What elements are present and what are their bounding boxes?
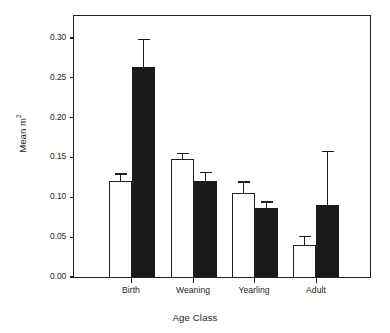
error-bar-cap [322, 151, 334, 152]
y-axis-tick-label: 0.25 [36, 72, 66, 82]
y-axis-tick-label: 0.00 [36, 271, 66, 281]
error-bar-cap [177, 153, 189, 154]
x-axis-label-weaning: Weaning [158, 285, 228, 295]
error-bar-cap [200, 172, 212, 173]
plot-area: 0.000.050.100.150.200.250.30 [73, 15, 371, 278]
error-bar-stem [304, 236, 305, 246]
bar-birth-open-bar [109, 181, 132, 277]
bar-yearling-filled-bar [255, 208, 278, 277]
error-bar-cap [261, 201, 273, 202]
bar-adult-open-bar [293, 245, 316, 277]
error-bar-stem [327, 151, 328, 205]
bar-yearling-open-bar [232, 193, 255, 277]
error-bar-cap [138, 39, 150, 40]
y-axis-tick-label: 0.30 [36, 32, 66, 42]
x-axis-tick-birth [131, 278, 132, 283]
plot-surface: 0.000.050.100.150.200.250.30 [74, 16, 370, 277]
x-axis-tick-weaning [193, 278, 194, 283]
y-axis-tick-mark [70, 77, 75, 78]
y-axis-tick-mark [70, 37, 75, 38]
y-axis-tick-label: 0.10 [36, 191, 66, 201]
error-bar-stem [205, 172, 206, 181]
x-axis-label-birth: Birth [96, 285, 166, 295]
x-axis-label-adult: Adult [281, 285, 351, 295]
bar-chart-figure: Mean m2 0.000.050.100.150.200.250.30 Age… [0, 0, 390, 333]
y-axis-title-superscript: 2 [15, 114, 22, 118]
y-axis-tick-label: 0.20 [36, 112, 66, 122]
error-bar-cap [238, 181, 250, 182]
y-axis-title-text: Mean m [17, 118, 28, 153]
error-bar-stem [243, 181, 244, 192]
x-axis-tick-yearling [254, 278, 255, 283]
y-axis-tick-mark [70, 276, 75, 277]
bar-birth-filled-bar [132, 67, 155, 277]
y-axis-tick-mark [70, 117, 75, 118]
bar-adult-filled-bar [316, 205, 339, 277]
bar-weaning-open-bar [171, 159, 194, 277]
y-axis-tick-mark [70, 237, 75, 238]
error-bar-stem [143, 39, 144, 67]
y-axis-title: Mean m2 [17, 74, 28, 194]
bar-weaning-filled-bar [194, 181, 217, 277]
error-bar-cap [299, 236, 311, 237]
y-axis-tick-mark [70, 157, 75, 158]
x-axis-title: Age Class [0, 312, 390, 323]
x-axis-tick-adult [316, 278, 317, 283]
x-axis-label-yearling: Yearling [219, 285, 289, 295]
error-bar-cap [115, 173, 127, 174]
y-axis-tick-label: 0.15 [36, 151, 66, 161]
y-axis-tick-mark [70, 197, 75, 198]
y-axis-tick-label: 0.05 [36, 231, 66, 241]
